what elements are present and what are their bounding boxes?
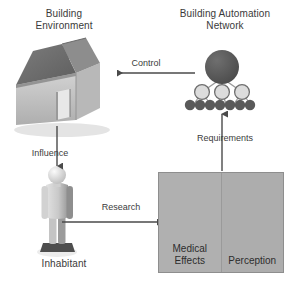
inhabitant-label: Inhabitant [8, 258, 120, 270]
edge-label-research: Research [82, 202, 160, 212]
network-tree-icon [185, 50, 255, 110]
edge-label-requirements: Requirements [178, 133, 272, 143]
edge-label-influence: Influence [15, 148, 85, 158]
edge-label-control: Control [108, 58, 184, 68]
research-panel-perception[interactable]: Perception [221, 173, 284, 272]
perception-label: Perception [222, 255, 284, 267]
isometric-house-icon [14, 38, 110, 137]
research-panel[interactable]: Medical Effects Perception [158, 172, 284, 273]
research-panel-medical-effects[interactable]: Medical Effects [159, 173, 221, 272]
building-automation-network-title: Building Automation Network [160, 8, 290, 32]
diagram-canvas: Medical Effects Perception Building Envi… [0, 0, 295, 294]
person-figure-icon [37, 166, 77, 257]
building-environment-title: Building Environment [12, 8, 116, 32]
medical-effects-label: Medical Effects [159, 243, 221, 267]
